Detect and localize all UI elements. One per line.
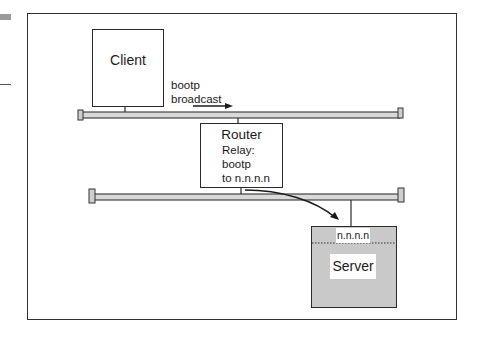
arrow-head-icon xyxy=(225,103,233,109)
client-label: Client xyxy=(92,52,164,68)
server-segment-bus xyxy=(93,194,400,200)
relay-arrow-head-icon xyxy=(330,212,339,220)
router-detail-1: Relay: xyxy=(222,143,255,157)
client-segment-bus xyxy=(82,112,400,118)
server-address: n.n.n.n xyxy=(336,229,370,241)
bus-terminator-right xyxy=(398,108,403,118)
router-detail-2: bootp xyxy=(222,157,251,171)
broadcast-annotation: bootp broadcast xyxy=(171,78,222,106)
bus-terminator-right-2 xyxy=(398,188,404,202)
router-label: Router xyxy=(200,127,283,142)
bus-terminator-left xyxy=(78,110,83,120)
client-node xyxy=(92,29,164,107)
bus-terminator-left-2 xyxy=(89,189,95,203)
broadcast-line-2: broadcast xyxy=(171,92,222,106)
router-detail-3: to n.n.n.n xyxy=(222,171,270,185)
broadcast-line-1: bootp xyxy=(171,78,222,92)
server-label: Server xyxy=(330,258,376,274)
